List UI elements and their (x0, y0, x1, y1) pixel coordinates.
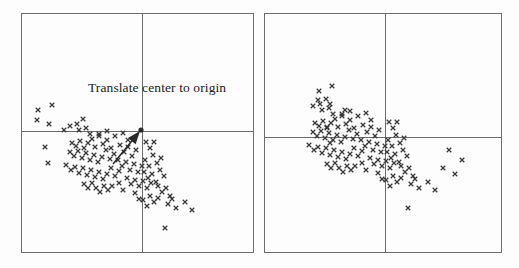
scatter-point (367, 140, 372, 145)
scatter-point (426, 180, 431, 185)
scatter-point (361, 123, 366, 128)
scatter-point (345, 164, 350, 169)
scatter-point (343, 108, 348, 113)
scatter-point (313, 121, 318, 126)
scatter-point (336, 155, 341, 160)
scatter-point (344, 122, 349, 127)
scatter-point (369, 125, 374, 130)
scatter-point (349, 168, 354, 173)
scatter-point (380, 177, 385, 182)
scatter-point (317, 89, 322, 94)
scatter-point (328, 153, 333, 158)
scatter-point (417, 186, 422, 191)
scatter-point (348, 118, 353, 123)
scatter-point (353, 164, 358, 169)
scatter-point (325, 162, 330, 167)
scatter-point (375, 142, 380, 147)
scatter-point (330, 84, 335, 89)
scatter-point (324, 146, 329, 151)
scatter-point (333, 117, 338, 122)
scatter-point (365, 130, 370, 135)
figure-container: Translate center to origin (0, 0, 519, 268)
scatter-point (369, 118, 374, 123)
scatter-point (403, 170, 408, 175)
scatter-point (341, 170, 346, 175)
scatter-point (371, 148, 376, 153)
scatter-point (363, 144, 368, 149)
scatter-point (320, 108, 325, 113)
scatter-point (372, 162, 377, 167)
scatter-point (368, 156, 373, 161)
scatter-point (389, 156, 394, 161)
scatter-point (347, 128, 352, 133)
scatter-point (355, 132, 360, 137)
scatter-point (344, 157, 349, 162)
scatter-point (364, 111, 369, 116)
scatter-point (387, 120, 392, 125)
scatter-point (391, 174, 396, 179)
scatter-point (331, 112, 336, 117)
scatter-point (332, 148, 337, 153)
scatter-point (388, 166, 393, 171)
scatter-point (384, 159, 389, 164)
scatter-point (343, 135, 348, 140)
scatter-point (385, 150, 390, 155)
scatter-point (376, 171, 381, 176)
scatter-point (348, 152, 353, 157)
scatter-point (336, 125, 341, 130)
scatter-point (337, 166, 342, 171)
scatter-point (390, 144, 395, 149)
scatter-point (395, 120, 400, 125)
scatter-point (307, 143, 312, 148)
scatter-point (399, 176, 404, 181)
scatter-point (333, 161, 338, 166)
scatter-point (409, 182, 414, 187)
scatter-point (340, 150, 345, 155)
scatter-point (406, 206, 411, 211)
scatter-point (394, 133, 399, 138)
scatter-point (348, 109, 353, 114)
scatter-point (319, 129, 324, 134)
scatter-point (391, 126, 396, 131)
scatter-point (453, 172, 458, 177)
scatter-point (352, 146, 357, 151)
scatter-point (360, 149, 365, 154)
scatter-point (317, 124, 322, 129)
scatter-point (460, 158, 465, 163)
scatter-point (339, 140, 344, 145)
scatter-point (388, 184, 393, 189)
scatter-point (433, 188, 438, 193)
scatter-point (395, 180, 400, 185)
scatter-point (359, 138, 364, 143)
scatter-point (377, 128, 382, 133)
scatter-point (315, 134, 320, 139)
scatter-point (373, 134, 378, 139)
scatter-point (320, 151, 325, 156)
scatter-point (356, 114, 361, 119)
scatter-point (329, 121, 334, 126)
scatter-point (398, 141, 403, 146)
scatter-point (311, 104, 316, 109)
scatter-point (316, 145, 321, 150)
scatter-point (335, 133, 340, 138)
scatter-point (384, 178, 389, 183)
scatter-point (441, 166, 446, 171)
scatter-point (312, 148, 317, 153)
scatter-points-after (0, 0, 519, 268)
scatter-point (331, 138, 336, 143)
scatter-point (447, 148, 452, 153)
scatter-point (360, 161, 365, 166)
scatter-point (405, 154, 410, 159)
scatter-point (376, 158, 381, 163)
scatter-point (407, 166, 412, 171)
scatter-point (323, 136, 328, 141)
scatter-point (327, 106, 332, 111)
scatter-point (379, 150, 384, 155)
scatter-point (311, 130, 316, 135)
scatter-point (401, 148, 406, 153)
scatter-point (380, 164, 385, 169)
scatter-point (324, 97, 329, 102)
scatter-point (364, 168, 369, 173)
scatter-point (356, 154, 361, 159)
scatter-point (393, 152, 398, 157)
